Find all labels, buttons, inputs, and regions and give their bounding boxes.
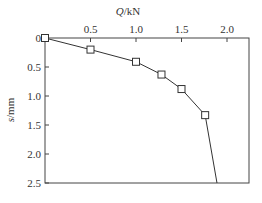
svg-text:2.0: 2.0 (220, 23, 234, 35)
x-axis-ticks: 0.51.01.52.0 (84, 23, 235, 42)
svg-text:1.0: 1.0 (27, 90, 41, 102)
data-series (42, 35, 217, 184)
svg-text:0.5: 0.5 (84, 23, 98, 35)
svg-text:0.5: 0.5 (27, 61, 41, 73)
svg-text:0: 0 (36, 32, 42, 44)
x-axis-label: Q/kN (116, 5, 141, 17)
y-axis-label: s/mm (4, 97, 16, 122)
data-point-marker (158, 71, 165, 78)
svg-text:1.5: 1.5 (175, 23, 189, 35)
svg-text:2.5: 2.5 (27, 177, 41, 189)
svg-text:1.0: 1.0 (129, 23, 143, 35)
data-point-marker (178, 86, 185, 93)
y-axis-ticks: 00.51.01.52.02.5 (27, 32, 49, 189)
data-point-marker (202, 112, 209, 119)
plot-frame (45, 38, 249, 183)
svg-text:1.5: 1.5 (27, 119, 41, 131)
load-settlement-chart: 0.51.01.52.0 00.51.01.52.02.5 Q/kN s/mm (0, 0, 262, 203)
data-point-marker (133, 58, 140, 65)
data-point-marker (87, 46, 94, 53)
data-point-marker (42, 35, 49, 42)
svg-text:2.0: 2.0 (27, 148, 41, 160)
